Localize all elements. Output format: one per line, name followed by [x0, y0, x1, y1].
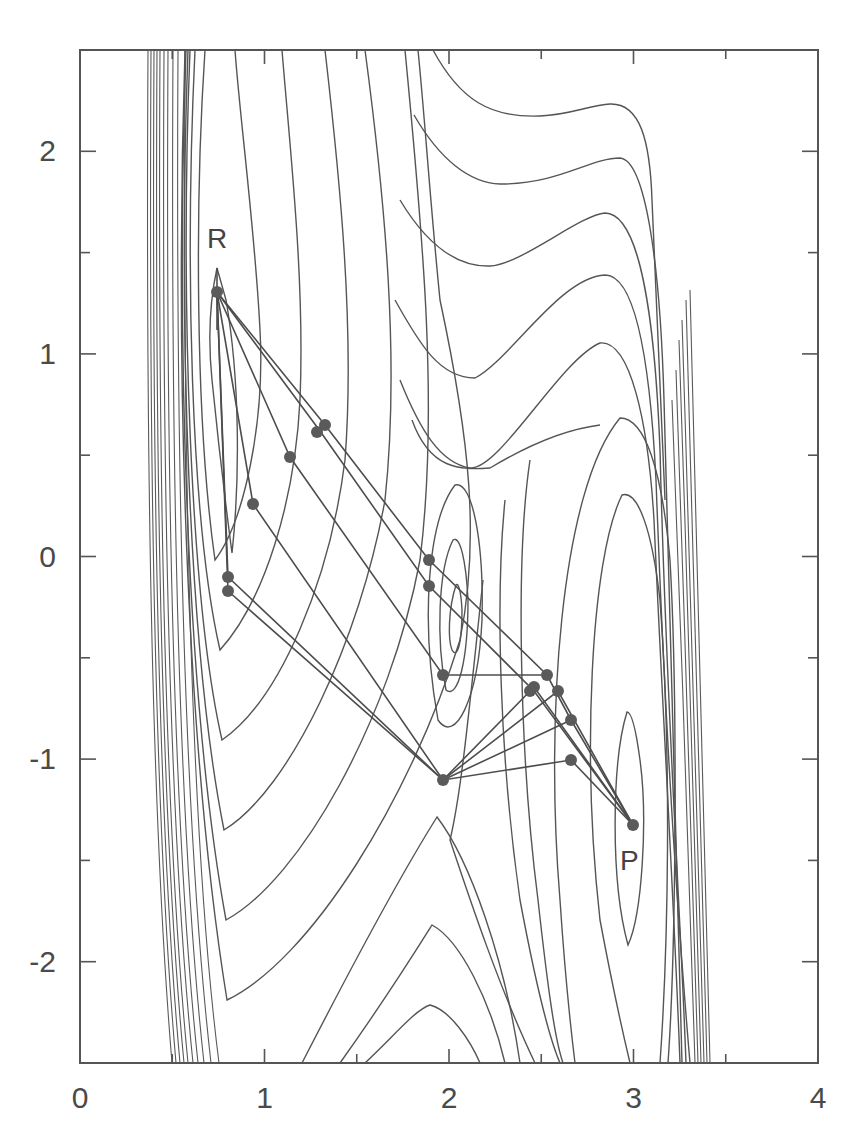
y-tick-label: -2: [29, 945, 56, 978]
x-tick-label: 3: [625, 1081, 642, 1114]
contour-intermediate-well: [428, 485, 482, 727]
y-tick-label: -1: [29, 742, 56, 775]
y-tick-label: 2: [39, 134, 56, 167]
contour-chart: R P 01234 -2-1012: [0, 0, 860, 1147]
reaction-path-network: [217, 268, 633, 825]
contour-reactant-well: [181, 50, 470, 1000]
x-tick-label: 2: [441, 1081, 458, 1114]
reactant-point: [211, 286, 223, 298]
y-tick-label: 1: [39, 337, 56, 370]
product-label: P: [620, 845, 639, 876]
reactant-label: R: [207, 223, 227, 254]
product-point: [627, 819, 639, 831]
x-tick-label: 1: [256, 1081, 273, 1114]
x-tick-label: 0: [72, 1081, 89, 1114]
saddle-point: [437, 774, 449, 786]
contour-upper-right: [395, 50, 690, 1063]
x-tick-label: 4: [810, 1081, 827, 1114]
contour-wall-right: [672, 290, 710, 1063]
y-tick-label: 0: [39, 540, 56, 573]
path-nodes: [211, 286, 639, 831]
